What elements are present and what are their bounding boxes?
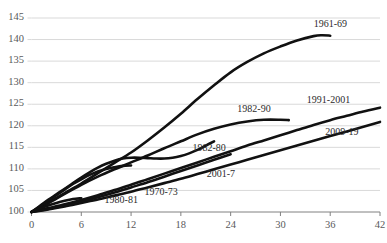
chart-plot-area bbox=[0, 0, 387, 243]
series-annotation-2001-7: 2001-7 bbox=[207, 168, 235, 179]
x-axis-label: 42 bbox=[368, 219, 387, 230]
series-annotation-2009-19: 2009-19 bbox=[325, 126, 358, 137]
x-axis-label: 0 bbox=[20, 219, 44, 230]
series-annotation-1982-80: 1982-80 bbox=[193, 142, 226, 153]
y-axis-label: 105 bbox=[0, 183, 24, 194]
series-annotation-1991-2001: 1991-2001 bbox=[307, 94, 350, 105]
x-axis-label: 6 bbox=[69, 219, 93, 230]
x-axis-label: 12 bbox=[119, 219, 143, 230]
y-axis-label: 120 bbox=[0, 119, 24, 130]
series-line-1961-69 bbox=[32, 35, 331, 212]
y-axis-label: 130 bbox=[0, 76, 24, 87]
y-axis-label: 140 bbox=[0, 33, 24, 44]
y-axis-label: 100 bbox=[0, 205, 24, 216]
x-axis-label: 18 bbox=[169, 219, 193, 230]
y-axis-label: 115 bbox=[0, 140, 24, 151]
series-line-1991-2001 bbox=[32, 108, 381, 212]
series-annotation-1982-90: 1982-90 bbox=[237, 103, 270, 114]
y-axis-label: 135 bbox=[0, 54, 24, 65]
y-axis-label: 110 bbox=[0, 162, 24, 173]
x-axis-label: 30 bbox=[268, 219, 292, 230]
chart-container: 1001051101151201251301351401450612182430… bbox=[0, 0, 387, 243]
x-axis-label: 36 bbox=[318, 219, 342, 230]
series-annotation-1970-73: 1970-73 bbox=[144, 186, 177, 197]
series-annotation-1961-69: 1961-69 bbox=[314, 18, 347, 29]
series-line-1982-90 bbox=[32, 120, 289, 212]
x-axis-label: 24 bbox=[219, 219, 243, 230]
y-axis-label: 145 bbox=[0, 11, 24, 22]
series-annotation-1980-81: 1980-81 bbox=[105, 194, 138, 205]
y-axis-label: 125 bbox=[0, 97, 24, 108]
